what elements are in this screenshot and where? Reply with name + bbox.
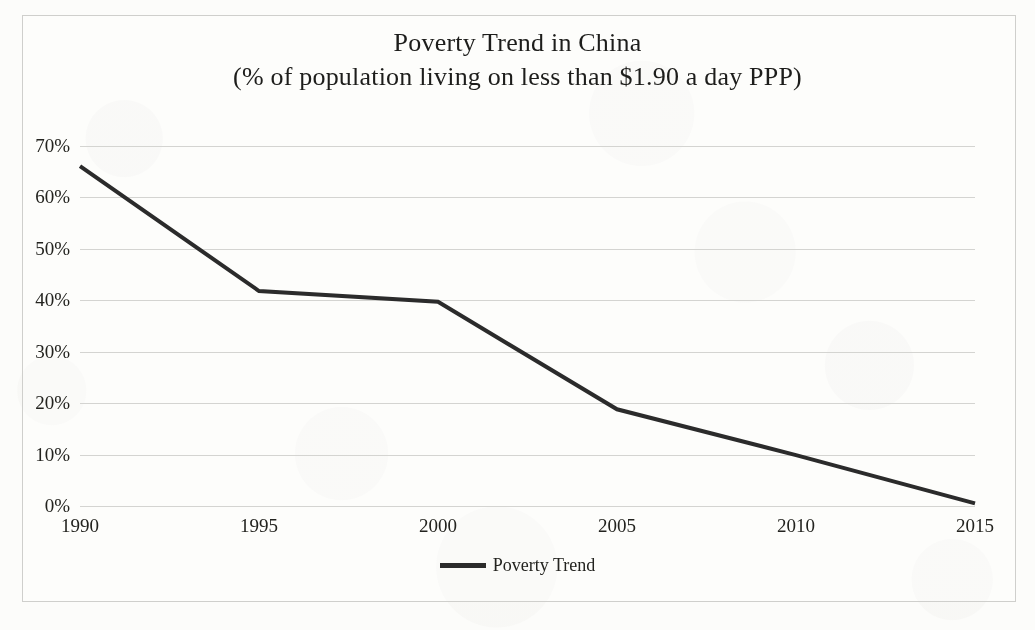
data-line-poverty-trend: [80, 166, 975, 503]
y-tick-0: 0%: [0, 495, 70, 517]
x-tick-2000: 2000: [419, 515, 457, 537]
chart-title-line-2: (% of population living on less than $1.…: [0, 60, 1035, 94]
chart-title-line-1: Poverty Trend in China: [394, 28, 642, 57]
y-tick-20: 20%: [0, 392, 70, 414]
x-tick-2010: 2010: [777, 515, 815, 537]
chart-title: Poverty Trend in China (% of population …: [0, 26, 1035, 94]
chart-legend: Poverty Trend: [0, 556, 1035, 574]
x-tick-2015: 2015: [956, 515, 994, 537]
legend-line-swatch-poverty-trend: [440, 563, 486, 568]
x-tick-1995: 1995: [240, 515, 278, 537]
legend-label-poverty-trend: Poverty Trend: [493, 556, 596, 574]
gridline-0: [80, 506, 975, 507]
y-tick-70: 70%: [0, 135, 70, 157]
scanned-page: Poverty Trend in China (% of population …: [0, 0, 1035, 630]
x-tick-1990: 1990: [61, 515, 99, 537]
y-tick-30: 30%: [0, 341, 70, 363]
series-line-poverty-trend: [80, 146, 975, 506]
y-axis-tick-labels: 70%60%50%40%30%20%10%0%: [0, 146, 70, 506]
x-tick-2005: 2005: [598, 515, 636, 537]
y-tick-50: 50%: [0, 238, 70, 260]
y-tick-40: 40%: [0, 289, 70, 311]
y-tick-10: 10%: [0, 444, 70, 466]
y-tick-60: 60%: [0, 186, 70, 208]
x-axis-tick-labels: 199019952000200520102015: [80, 515, 975, 545]
